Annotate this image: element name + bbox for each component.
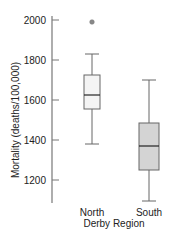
y-axis: 20001800160014001200 [24,15,59,204]
y-tick-label: 1600 [24,95,47,106]
y-axis-title: Mortality (deaths/100,000) [10,62,21,178]
y-tick-label: 2000 [24,15,47,26]
outlier-point [90,20,95,25]
x-category-label: North [80,207,104,218]
x-category-label: South [136,207,162,218]
box-plot-chart: 20001800160014001200 NorthSouth Derby Re… [0,0,177,245]
iqr-box [84,75,100,109]
y-tick-label: 1800 [24,55,47,66]
box-south [139,80,159,201]
x-axis-title: Derby Region [83,218,144,229]
y-tick-label: 1400 [24,135,47,146]
y-tick-label: 1200 [24,175,47,186]
box-plot-series: NorthSouth [80,20,162,218]
box-north [84,20,100,144]
